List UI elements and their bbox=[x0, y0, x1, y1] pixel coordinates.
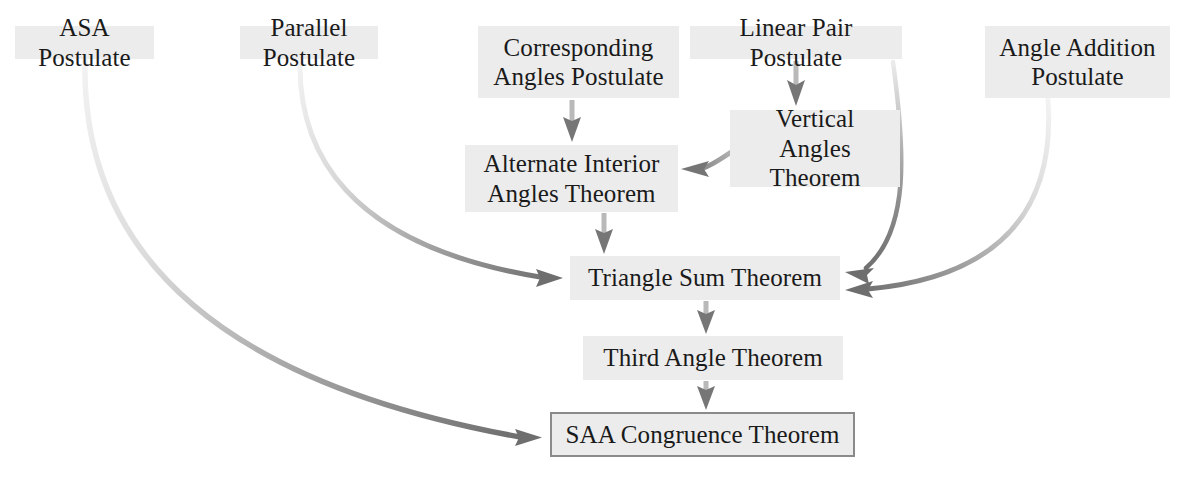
node-angleaddition: Angle Addition Postulate bbox=[985, 26, 1170, 98]
node-linearpair: Linear Pair Postulate bbox=[690, 26, 902, 59]
edge-altinterior-to-trianglesum bbox=[595, 213, 613, 254]
node-verticalangles: Vertical Angles Theorem bbox=[730, 110, 900, 187]
node-parallel: Parallel Postulate bbox=[240, 26, 378, 59]
edge-trianglesum-to-thirdangle bbox=[697, 301, 715, 334]
edge-asa-to-saa bbox=[85, 60, 542, 446]
node-asa: ASA Postulate bbox=[15, 26, 154, 59]
node-thirdangle: Third Angle Theorem bbox=[583, 336, 843, 380]
node-trianglesum: Triangle Sum Theorem bbox=[570, 256, 840, 300]
node-corresponding: Corresponding Angles Postulate bbox=[478, 26, 679, 98]
node-altinterior: Alternate Interior Angles Theorem bbox=[465, 145, 678, 212]
edge-thirdangle-to-saa bbox=[697, 381, 715, 410]
node-saa: SAA Congruence Theorem bbox=[550, 412, 855, 457]
edge-corresponding-to-altinterior bbox=[563, 100, 581, 142]
flowchart-canvas: ASA PostulateParallel PostulateCorrespon… bbox=[0, 0, 1183, 486]
